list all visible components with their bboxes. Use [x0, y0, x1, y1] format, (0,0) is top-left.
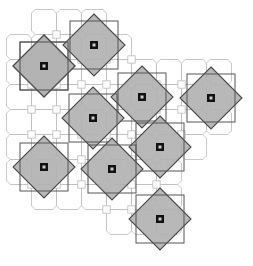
tile-center-marker-core [210, 97, 213, 100]
tile-center-marker-core [43, 166, 46, 169]
tile-center-marker-core [159, 146, 162, 149]
lattice-square [53, 31, 60, 38]
tile-center-marker-core [93, 44, 96, 47]
lattice-square [78, 181, 85, 188]
lattice-square [53, 131, 60, 138]
lattice-square [178, 106, 185, 113]
lattice-square [128, 206, 135, 213]
lattice-square [178, 81, 185, 88]
tile-center-marker-core [159, 218, 162, 221]
lattice-square [128, 56, 135, 63]
lattice-square [78, 81, 85, 88]
lattice-square [103, 81, 110, 88]
lattice-square [53, 106, 60, 113]
lattice-square [103, 206, 110, 213]
tile-center-marker-core [111, 168, 114, 171]
lattice-square [153, 181, 160, 188]
figure-root [0, 0, 253, 266]
lattice-square [28, 131, 35, 138]
tile-center-marker-core [43, 65, 46, 68]
lattice-square [128, 131, 135, 138]
lattice-square [28, 106, 35, 113]
tiling-diagram [0, 0, 253, 266]
lattice-square [78, 156, 85, 163]
tile-center-marker-core [92, 117, 95, 120]
tile-center-marker-core [141, 96, 144, 99]
